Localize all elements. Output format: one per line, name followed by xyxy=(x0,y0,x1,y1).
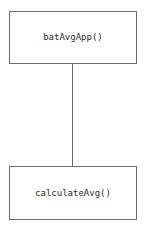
connector-line-parent-to-child xyxy=(72,64,73,166)
module-label-bat-avg-app: batAvgApp() xyxy=(43,32,103,43)
module-box-calculate-avg[interactable]: calculateAvg() xyxy=(9,166,137,220)
module-label-calculate-avg: calculateAvg() xyxy=(35,188,111,199)
module-box-bat-avg-app[interactable]: batAvgApp() xyxy=(9,11,137,64)
structure-chart-canvas: batAvgApp() calculateAvg() xyxy=(0,0,144,230)
